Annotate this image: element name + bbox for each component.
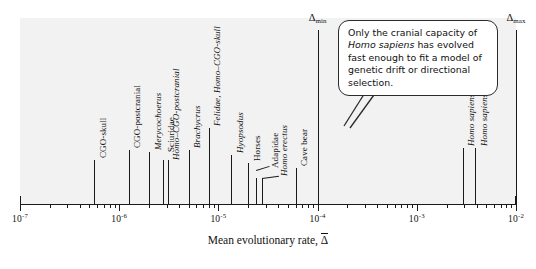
data-point-label: Homo erectus [279, 125, 289, 176]
data-point-marker [248, 163, 249, 204]
axis-tick-minor [179, 204, 180, 208]
data-point-marker [189, 150, 190, 204]
axis-tick-minor [196, 204, 197, 208]
axis-tick-minor [511, 204, 512, 208]
callout-species-name: Homo sapiens [348, 39, 414, 50]
delta-min-marker [318, 30, 319, 204]
axis-tick-minor [407, 204, 408, 208]
axis-tick-minor [50, 204, 51, 208]
data-point-label: Homo sapiens [479, 94, 489, 146]
axis-tick-label: 10-2 [508, 212, 524, 224]
axis-tick-minor [302, 204, 303, 208]
axis-tick-minor [412, 204, 413, 208]
axis-tick-major [20, 204, 21, 211]
axis-tick-minor [89, 204, 90, 208]
axis-tick-minor [447, 204, 448, 208]
axis-tick-minor [266, 204, 267, 208]
data-point-label: CGO-skull [98, 118, 108, 158]
x-axis-line [20, 204, 516, 205]
data-point-marker [475, 148, 476, 204]
axis-title-text: Mean evolutionary rate, [208, 234, 321, 246]
axis-tick-minor [278, 204, 279, 208]
axis-tick-minor [167, 204, 168, 208]
axis-tick-major [516, 204, 517, 211]
data-point-marker [168, 160, 169, 204]
data-point-label: Cave bear [299, 129, 309, 166]
delta-max-marker [516, 30, 517, 204]
axis-tick-minor [296, 204, 297, 208]
axis-tick-minor [347, 204, 348, 208]
callout-line-1: Only the cranial capacity of [348, 27, 477, 38]
axis-tick-minor [209, 204, 210, 208]
delta-min-label: Δmin [309, 12, 327, 23]
cranial-capacity-callout: Only the cranial capacity of Homo sapien… [338, 20, 498, 96]
data-point-label: Homo sapiens [466, 94, 476, 146]
x-axis-title: Mean evolutionary rate, Δ [0, 234, 536, 246]
axis-tick-minor [104, 204, 105, 208]
callout-line-3: fast enough to fit a model [348, 52, 470, 63]
axis-tick-minor [203, 204, 204, 208]
axis-tick-minor [365, 204, 366, 208]
axis-tick-major [318, 204, 319, 211]
delta-bar-symbol: Δ [321, 234, 328, 246]
axis-tick-label: 10-7 [12, 212, 28, 224]
axis-tick-minor [67, 204, 68, 208]
axis-tick-minor [288, 204, 289, 208]
data-point-marker [209, 128, 210, 204]
axis-tick-major [417, 204, 418, 211]
axis-tick-minor [80, 204, 81, 208]
delta-max-label: Δmax [507, 12, 526, 23]
data-point-marker [163, 160, 164, 204]
axis-tick-minor [110, 204, 111, 208]
axis-tick-minor [464, 204, 465, 208]
axis-tick-minor [486, 204, 487, 208]
data-point-marker [129, 150, 130, 204]
data-point-label: Hyopsodus [235, 112, 245, 153]
data-point-label: Homo–CGO-postcranial [171, 69, 181, 161]
data-point-label: Horses [252, 135, 262, 161]
data-point-marker [296, 168, 297, 204]
data-point-marker [94, 160, 95, 204]
axis-tick-minor [377, 204, 378, 208]
axis-tick-minor [149, 204, 150, 208]
axis-tick-minor [97, 204, 98, 208]
axis-tick-minor [387, 204, 388, 208]
axis-tick-minor [501, 204, 502, 208]
data-point-label: Felidae, Homo–CGO-skull [212, 26, 222, 126]
axis-tick-major [119, 204, 120, 211]
axis-tick-minor [189, 204, 190, 208]
data-point-label: Merycochoerus [153, 93, 163, 150]
axis-tick-minor [401, 204, 402, 208]
axis-tick-label: 10-3 [409, 212, 425, 224]
axis-tick-minor [494, 204, 495, 208]
data-point-marker [463, 148, 464, 204]
evolutionary-rate-figure: 10-710-610-510-410-310-2 CGO-skullCGO-po… [0, 0, 536, 269]
axis-tick-minor [214, 204, 215, 208]
callout-line-5: selection. [348, 77, 393, 88]
axis-tick-label: 10-5 [210, 212, 226, 224]
axis-tick-minor [395, 204, 396, 208]
data-point-label: CGO-postcranial [132, 85, 142, 148]
data-point-label: Brachycrus [192, 106, 202, 149]
axis-tick-minor [248, 204, 249, 208]
axis-tick-minor [477, 204, 478, 208]
axis-tick-minor [308, 204, 309, 208]
axis-tick-major [218, 204, 219, 211]
axis-tick-minor [313, 204, 314, 208]
axis-tick-minor [506, 204, 507, 208]
axis-tick-label: 10-6 [111, 212, 127, 224]
data-point-marker [149, 152, 150, 204]
data-point-marker [256, 178, 257, 204]
data-point-marker [231, 155, 232, 204]
callout-line-2-rest: has evolved [414, 39, 473, 50]
axis-tick-label: 10-4 [310, 212, 326, 224]
axis-tick-minor [115, 204, 116, 208]
data-point-marker [262, 178, 263, 204]
